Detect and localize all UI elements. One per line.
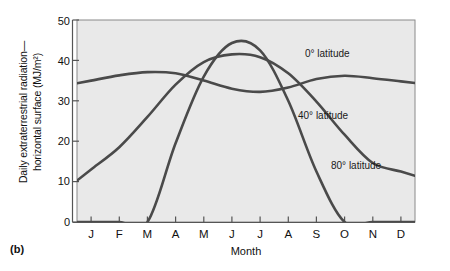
x-axis-tick-labels: J F M A M J J A S O N D <box>77 228 415 244</box>
plot-background <box>77 20 415 222</box>
curve-label-lat40: 40° latitude <box>298 110 348 121</box>
x-tick-sep: S <box>306 228 326 240</box>
x-tick-nov: N <box>363 228 383 240</box>
x-tick-dec: D <box>391 228 411 240</box>
x-tick-feb: F <box>109 228 129 240</box>
x-tick-may: M <box>194 228 214 240</box>
curve-label-lat0: 0° latitude <box>305 48 350 59</box>
curve-label-lat80: 80° latitude <box>331 160 381 171</box>
x-tick-jan: J <box>81 228 101 240</box>
x-tick-oct: O <box>335 228 355 240</box>
x-tick-aug: A <box>278 228 298 240</box>
x-axis-title: Month <box>77 245 415 257</box>
figure-panel: Daily extraterrestrial radiation— horizo… <box>0 0 450 271</box>
panel-label: (b) <box>10 243 24 255</box>
x-tick-jun: J <box>222 228 242 240</box>
x-tick-mar: M <box>137 228 157 240</box>
x-tick-apr: A <box>166 228 186 240</box>
x-tick-jul: J <box>250 228 270 240</box>
